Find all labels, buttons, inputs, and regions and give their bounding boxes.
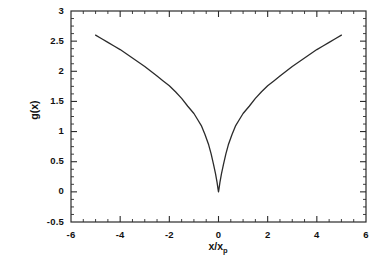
x-tick-label: 6 xyxy=(346,229,380,240)
y-tick-label: 1.5 xyxy=(50,95,64,106)
x-axis-title: x/xp xyxy=(168,240,268,255)
y-axis-title: g(x) xyxy=(28,90,40,130)
data-series-group xyxy=(96,35,342,192)
y-tick-label: 1 xyxy=(59,125,64,136)
x-tick-label: 0 xyxy=(199,229,239,240)
y-axis-minor-ticks xyxy=(71,19,366,215)
y-tick-label: 2 xyxy=(59,65,64,76)
x-tick-label: -4 xyxy=(100,229,140,240)
y-tick-label: -0.5 xyxy=(47,216,64,227)
x-axis-title-subscript: p xyxy=(223,246,228,255)
x-tick-label: 2 xyxy=(248,229,288,240)
y-tick-label: 3 xyxy=(59,5,64,16)
y-axis-major-ticks xyxy=(71,41,366,192)
x-tick-label: 4 xyxy=(297,229,337,240)
y-tick-label: 2.5 xyxy=(50,35,64,46)
x-tick-label: -6 xyxy=(51,229,91,240)
series-line-gx xyxy=(96,35,342,192)
x-axis-title-main: x/x xyxy=(208,240,223,252)
y-tick-label: 0.5 xyxy=(50,155,64,166)
x-tick-label: -2 xyxy=(149,229,189,240)
chart-figure: 32.521.510.50-0.5 -6-4-20246 g(x) x/xp xyxy=(0,0,380,267)
y-tick-label: 0 xyxy=(59,185,64,196)
